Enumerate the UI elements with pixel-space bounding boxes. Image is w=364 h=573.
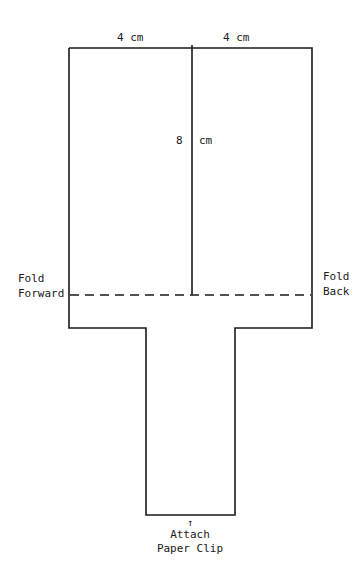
fold-forward-label-line2: Forward xyxy=(18,287,64,301)
fold-back-label-line1: Fold xyxy=(323,270,350,284)
paper-clip-label: Paper Clip xyxy=(130,542,250,556)
top-right-dimension: 4 cm xyxy=(223,31,250,45)
attach-label: Attach xyxy=(140,528,240,542)
fold-forward-label-line1: Fold xyxy=(18,272,45,286)
template-outline xyxy=(69,48,312,515)
blade-length-unit: cm xyxy=(199,134,212,148)
top-left-dimension: 4 cm xyxy=(117,31,144,45)
blade-length-number: 8 xyxy=(176,134,183,148)
fold-back-label-line2: Back xyxy=(323,285,350,299)
